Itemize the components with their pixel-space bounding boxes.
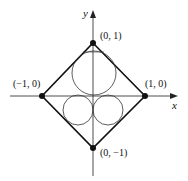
vertex-left-label: (−1, 0)	[13, 79, 40, 89]
vertex-bottom-label: (0, −1)	[100, 148, 127, 158]
x-axis-label: x	[172, 100, 177, 111]
lower-left-circle	[63, 95, 93, 125]
diagram-canvas	[0, 0, 188, 181]
diamond-square	[42, 43, 145, 148]
upper-circle	[72, 51, 116, 95]
vertex-bottom-dot	[90, 145, 96, 151]
y-axis-arrow-icon	[90, 10, 96, 18]
vertex-top-dot	[90, 40, 96, 46]
lower-right-circle	[93, 95, 123, 125]
vertex-left-dot	[39, 93, 45, 99]
vertex-right-label: (1, 0)	[145, 79, 167, 89]
vertex-right-dot	[142, 93, 148, 99]
y-axis-label: y	[83, 8, 88, 19]
vertex-top-label: (0, 1)	[100, 31, 122, 41]
